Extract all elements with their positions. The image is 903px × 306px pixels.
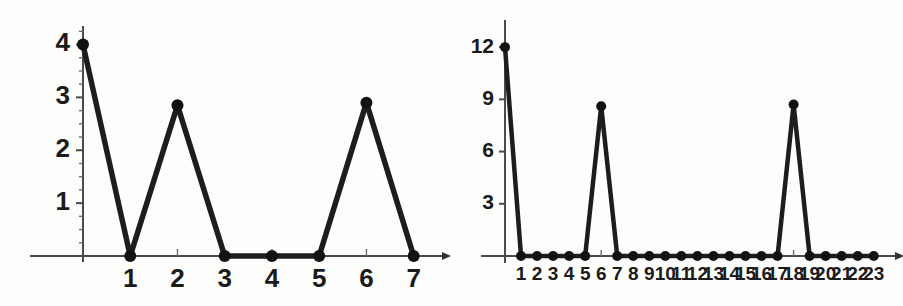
data-point-marker bbox=[612, 251, 622, 261]
data-point-marker bbox=[548, 251, 558, 261]
data-point-marker bbox=[580, 251, 590, 261]
x-tick-label: 23 bbox=[863, 263, 884, 284]
data-point-marker bbox=[789, 100, 799, 110]
x-tick-label: 5 bbox=[312, 263, 326, 293]
data-point-marker bbox=[408, 250, 420, 262]
x-tick-label: 1 bbox=[516, 263, 527, 284]
x-tick-label: 7 bbox=[612, 263, 623, 284]
x-tick-label: 3 bbox=[548, 263, 559, 284]
series-polyline bbox=[83, 45, 414, 256]
data-point-marker bbox=[596, 101, 606, 111]
data-point-marker bbox=[500, 42, 510, 52]
right-series bbox=[505, 47, 874, 256]
data-point-marker bbox=[124, 250, 136, 262]
data-point-marker bbox=[644, 251, 654, 261]
data-point-marker bbox=[516, 251, 526, 261]
data-point-marker bbox=[628, 251, 638, 261]
x-tick-label: 4 bbox=[265, 263, 280, 293]
y-tick-label: 3 bbox=[482, 190, 494, 213]
x-axis-arrow bbox=[895, 252, 903, 260]
right-xlabels: 1234567891011121314151617181920212223 bbox=[516, 263, 885, 284]
series-polyline bbox=[505, 47, 874, 256]
right-markers bbox=[500, 42, 879, 261]
left-xlabels: 1234567 bbox=[123, 263, 421, 293]
x-tick-label: 5 bbox=[580, 263, 591, 284]
data-point-marker bbox=[360, 97, 372, 109]
data-point-marker bbox=[660, 251, 670, 261]
data-point-marker bbox=[77, 39, 89, 51]
data-point-marker bbox=[219, 250, 231, 262]
x-tick-label: 2 bbox=[170, 263, 184, 293]
x-tick-label: 6 bbox=[596, 263, 607, 284]
y-tick-label: 4 bbox=[56, 27, 71, 57]
data-point-marker bbox=[313, 250, 325, 262]
data-point-marker bbox=[266, 250, 278, 262]
right-axes bbox=[481, 20, 903, 263]
data-point-marker bbox=[741, 251, 751, 261]
x-tick-label: 4 bbox=[564, 263, 575, 284]
x-tick-label: 1 bbox=[123, 263, 137, 293]
x-axis-arrow bbox=[442, 252, 451, 260]
chart-panel-right: 36912 1234567891011121314151617181920212… bbox=[451, 0, 903, 306]
left-ylabels: 1234 bbox=[56, 27, 71, 216]
chart-panel-left: 1234 1234567 bbox=[0, 0, 451, 306]
x-tick-label: 8 bbox=[628, 263, 639, 284]
data-point-marker bbox=[708, 251, 718, 261]
data-point-marker bbox=[532, 251, 542, 261]
data-point-marker bbox=[853, 251, 863, 261]
left-yticks bbox=[76, 31, 83, 242]
line-chart-left: 1234 1234567 bbox=[0, 0, 451, 306]
data-point-marker bbox=[821, 251, 831, 261]
data-point-marker bbox=[869, 251, 879, 261]
data-point-marker bbox=[724, 251, 734, 261]
y-tick-label: 6 bbox=[482, 138, 494, 161]
data-point-marker bbox=[837, 251, 847, 261]
y-tick-label: 1 bbox=[56, 186, 70, 216]
x-tick-label: 2 bbox=[532, 263, 543, 284]
data-point-marker bbox=[757, 251, 767, 261]
y-tick-label: 2 bbox=[56, 133, 70, 163]
left-axes bbox=[30, 26, 451, 262]
left-series bbox=[83, 45, 414, 256]
x-tick-label: 3 bbox=[217, 263, 231, 293]
x-tick-label: 7 bbox=[406, 263, 420, 293]
data-point-marker bbox=[805, 251, 815, 261]
left-markers bbox=[77, 39, 420, 262]
data-point-marker bbox=[171, 99, 183, 111]
y-tick-label: 9 bbox=[482, 86, 494, 109]
y-tick-label: 12 bbox=[471, 34, 494, 57]
y-tick-label: 3 bbox=[56, 80, 70, 110]
data-point-marker bbox=[773, 251, 783, 261]
x-tick-label: 6 bbox=[359, 263, 373, 293]
figure-canvas: 1234 1234567 36912 123456789101112131415… bbox=[0, 0, 903, 306]
right-ylabels: 36912 bbox=[471, 34, 494, 214]
data-point-marker bbox=[692, 251, 702, 261]
data-point-marker bbox=[676, 251, 686, 261]
line-chart-right: 36912 1234567891011121314151617181920212… bbox=[451, 0, 903, 306]
data-point-marker bbox=[564, 251, 574, 261]
x-tick-label: 9 bbox=[644, 263, 655, 284]
